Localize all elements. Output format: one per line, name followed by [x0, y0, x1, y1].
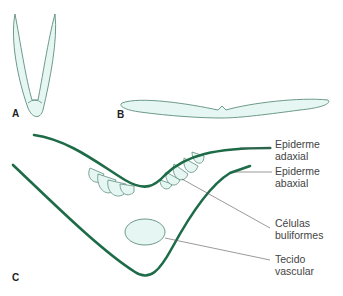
abaxial-epidermis-line — [13, 165, 250, 276]
panel-c-midrib-detail — [13, 135, 272, 276]
open-leaf-shape — [121, 99, 329, 118]
label-tecido-vascular: Tecido vascular — [275, 253, 314, 277]
adaxial-epidermis-line — [34, 135, 270, 187]
panel-a-folded-leaf — [13, 14, 55, 117]
vascular-tissue — [125, 219, 165, 245]
leader-line-vascular — [165, 238, 270, 260]
label-celulas-buliformes: Células buliformes — [275, 217, 323, 241]
leader-line-bulliform — [182, 179, 270, 228]
label-epiderme-abaxial: Epiderme abaxial — [275, 165, 320, 189]
folded-leaf-shape — [13, 14, 55, 117]
panel-label-a: A — [12, 108, 19, 119]
panel-label-b: B — [117, 109, 124, 120]
panel-b-open-leaf — [121, 99, 329, 118]
panel-label-c: C — [12, 272, 19, 283]
bulliform-cells-right — [160, 152, 204, 189]
label-epiderme-adaxial: Epiderme adaxial — [275, 138, 320, 162]
